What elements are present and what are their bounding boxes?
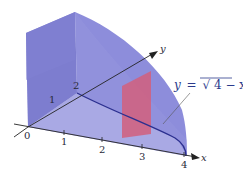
- x-axis-label: x: [201, 152, 207, 163]
- equation-equals: =: [187, 78, 197, 92]
- y-axis-arrow-icon: [149, 51, 158, 59]
- equation-label: y = √ 4 − x: [173, 78, 243, 92]
- y-tick-label-1: 1: [49, 94, 55, 105]
- y-tick-label-2: 2: [73, 80, 79, 91]
- x-tick-label-4: 4: [181, 159, 187, 170]
- y-axis-label: y: [159, 43, 166, 54]
- x-tick-label-0: 0: [24, 130, 30, 141]
- x-tick-label-2: 2: [99, 144, 105, 155]
- x-axis-arrow-icon: [191, 153, 200, 160]
- equation-lhs: y: [173, 78, 181, 92]
- equation-radical: √: [203, 78, 211, 92]
- x-tick-label-3: 3: [139, 151, 145, 162]
- x-tick-label-1: 1: [61, 136, 67, 147]
- solid-of-known-cross-section-diagram: 0 1 2 3 4 1 2 x y y = √ 4 − x: [0, 0, 243, 180]
- equation-radicand: 4 − x: [214, 78, 243, 92]
